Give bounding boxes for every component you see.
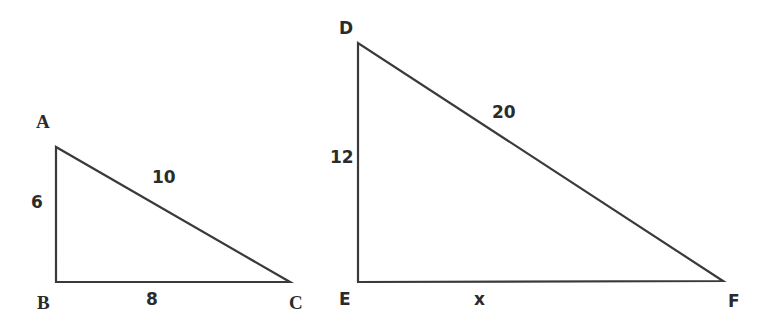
similar-triangles-diagram: A B C 6 8 10 D E F 12 x 20: [0, 0, 762, 329]
vertex-label-a: A: [36, 112, 50, 131]
vertex-label-e: E: [339, 291, 351, 308]
triangle-def: [358, 43, 723, 282]
triangles-canvas: [0, 0, 762, 329]
side-label-df: 20: [492, 104, 516, 121]
side-label-bc: 8: [146, 291, 158, 308]
vertex-label-c: C: [289, 293, 303, 312]
vertex-label-b: B: [37, 293, 50, 312]
vertex-label-f: F: [728, 293, 740, 310]
side-label-ac: 10: [152, 169, 176, 186]
side-label-de: 12: [330, 149, 354, 166]
vertex-label-d: D: [339, 20, 353, 37]
side-label-ef: x: [474, 291, 485, 308]
side-label-ab: 6: [31, 194, 43, 211]
